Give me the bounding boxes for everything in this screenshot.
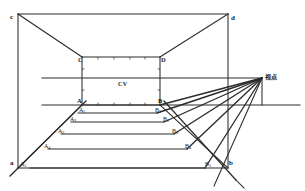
label-A-0: A — [77, 98, 82, 105]
station-point-crossing-lines — [214, 78, 262, 188]
depth-division-rows — [30, 113, 205, 168]
b-lower-extension — [236, 180, 244, 188]
label-A-3: A3 — [58, 128, 64, 134]
label-B-4-sub: 4 — [189, 145, 191, 150]
label-B-0: B — [158, 98, 162, 105]
label-B-5-sub: 5 — [209, 163, 211, 168]
label-B-3-sub: 3 — [176, 130, 178, 135]
label-B-3: B3 — [172, 128, 178, 134]
label-B-5: B5 — [205, 161, 211, 167]
label-outer-bottom-left-a: a — [10, 160, 14, 167]
label-center-of-vision: CV — [118, 81, 127, 87]
label-inner-top-left-C: C — [78, 57, 83, 64]
ray-B1-to-vp — [157, 78, 262, 113]
diagonal-d-to-D — [160, 14, 228, 57]
diagonal-c-to-C — [18, 14, 82, 57]
label-B-1: B1 — [155, 107, 161, 113]
label-B-0-base: B — [158, 97, 162, 104]
label-outer-top-right-d: d — [231, 15, 235, 22]
label-B-1-sub: 1 — [159, 109, 161, 114]
label-A-0-base: A — [77, 97, 82, 104]
label-outer-top-left-c: c — [10, 14, 13, 21]
diagonal-b-to-B — [160, 105, 228, 168]
viewpoint-to-b-extension — [214, 78, 262, 186]
diagram-canvas: c d a b C D CV 视点 A A1 A2 A3 A4 A5 B B1 … — [0, 0, 305, 191]
label-A-5: A5 — [20, 161, 26, 167]
label-B-2: B2 — [163, 116, 169, 122]
perspective-drawing — [0, 0, 305, 191]
label-A-2: A2 — [70, 116, 76, 122]
label-A-4: A4 — [44, 143, 50, 149]
label-B-4: B4 — [185, 143, 191, 149]
ray-B3-to-vp — [174, 78, 262, 134]
vanishing-ray-fan — [157, 78, 262, 168]
label-outer-bottom-right-b: b — [229, 160, 233, 167]
label-viewpoint: 视点 — [265, 74, 277, 80]
label-inner-top-right-D: D — [161, 57, 166, 64]
label-B-2-sub: 2 — [167, 118, 169, 123]
label-A-1: A1 — [79, 107, 85, 113]
